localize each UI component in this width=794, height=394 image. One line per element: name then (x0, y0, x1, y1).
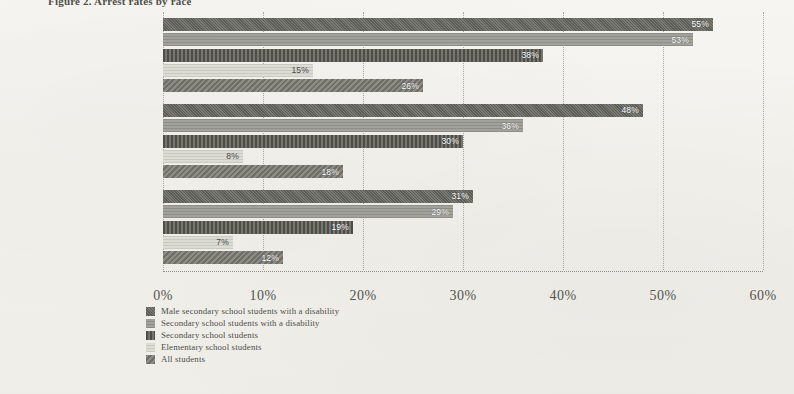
legend-item: All students (146, 354, 339, 364)
legend-item: Secondary school students (146, 330, 339, 340)
bar: 36% (163, 119, 523, 132)
bar-value-label: 7% (216, 237, 229, 247)
legend-label: Male secondary school students with a di… (161, 306, 339, 316)
legend-item: Secondary school students with a disabil… (146, 318, 339, 328)
bar: 30% (163, 135, 463, 148)
bar: 48% (163, 104, 643, 117)
bar-value-label: 48% (621, 105, 639, 115)
x-tick-label: 30% (449, 288, 476, 304)
legend-label: Elementary school students (161, 342, 262, 352)
bar: 55% (163, 18, 713, 31)
x-tick-label: 0% (153, 288, 173, 304)
bar: 18% (163, 165, 343, 178)
bar: 26% (163, 79, 423, 92)
bar-value-label: 18% (321, 167, 339, 177)
x-tick-label: 50% (649, 288, 676, 304)
bar-value-label: 19% (331, 222, 349, 232)
bar-value-label: 36% (501, 121, 519, 131)
bar-value-label: 29% (431, 207, 449, 217)
legend-item: Elementary school students (146, 342, 339, 352)
legend-swatch-icon (146, 355, 155, 364)
bar-value-label: 30% (441, 136, 459, 146)
bar: 29% (163, 205, 453, 218)
bar-value-label: 31% (451, 191, 469, 201)
legend-label: Secondary school students with a disabil… (161, 318, 320, 328)
x-tick-label: 20% (349, 288, 376, 304)
bar-value-label: 8% (226, 151, 239, 161)
legend-swatch-icon (146, 343, 155, 352)
gridline-50% (663, 12, 664, 270)
bar-value-label: 26% (401, 81, 419, 91)
figure-title: Figure 2. Arrest rates by race (48, 0, 192, 7)
bar: 8% (163, 150, 243, 163)
bar-value-label: 38% (521, 50, 539, 60)
legend-label: Secondary school students (161, 330, 258, 340)
bar: 7% (163, 236, 233, 249)
legend-item: Male secondary school students with a di… (146, 306, 339, 316)
bar-value-label: 55% (691, 19, 709, 29)
bar: 19% (163, 221, 353, 234)
legend-swatch-icon (146, 319, 155, 328)
bar: 15% (163, 64, 313, 77)
gridline-40% (563, 12, 564, 270)
gridline-60% (763, 12, 764, 270)
bar-value-label: 53% (671, 35, 689, 45)
x-axis-line (163, 271, 763, 272)
bar-value-label: 15% (291, 65, 309, 75)
x-tick-label: 40% (549, 288, 576, 304)
bar: 38% (163, 49, 543, 62)
chart-legend: Male secondary school students with a di… (146, 306, 339, 364)
x-tick-label: 10% (249, 288, 276, 304)
legend-label: All students (161, 354, 205, 364)
chart-plot-area: 0%10%20%30%40%50%60% African AmericansLa… (163, 12, 763, 270)
x-tick-label: 60% (749, 288, 776, 304)
bar: 53% (163, 33, 693, 46)
legend-swatch-icon (146, 307, 155, 316)
bar: 12% (163, 251, 283, 264)
bar-value-label: 12% (261, 253, 279, 263)
bar: 31% (163, 190, 473, 203)
legend-swatch-icon (146, 331, 155, 340)
